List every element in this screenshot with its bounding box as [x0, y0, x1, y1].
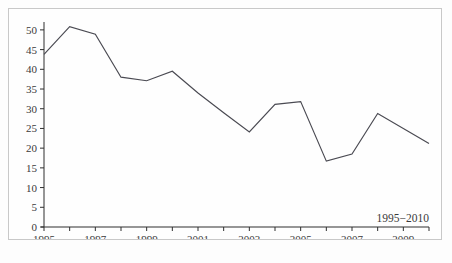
y-axis-tick-label: 50 [26, 24, 38, 36]
y-axis-tick-label: 40 [26, 63, 38, 75]
x-axis-tick-label: 2007 [341, 233, 364, 239]
x-axis-tick-label: 2005 [290, 233, 313, 239]
chart-figure: 05101520253035404550 1995199719992001200… [0, 0, 452, 263]
x-axis-tick-label: 1997 [84, 233, 107, 239]
y-axis-tick-label: 10 [26, 182, 38, 194]
x-axis-tick-label: 2003 [238, 233, 261, 239]
range-annotation: 1995−2010 [377, 212, 430, 224]
y-axis-tick-label: 5 [32, 201, 38, 213]
x-axis-tick-label: 1995 [33, 233, 56, 239]
x-axis-tick-label: 2009 [392, 233, 415, 239]
x-axis-tick-label: 1999 [136, 233, 159, 239]
x-axis-tick-group: 19951997199920012003200520072009 [33, 227, 429, 239]
y-axis-tick-label: 25 [26, 122, 38, 134]
y-axis-tick-label: 20 [26, 142, 38, 154]
y-axis-tick-group: 05101520253035404550 [26, 24, 44, 233]
line-chart-plot: 05101520253035404550 1995199719992001200… [9, 9, 441, 239]
data-series-line [44, 27, 429, 161]
y-axis-tick-label: 45 [26, 44, 38, 56]
x-axis-tick-label: 2001 [187, 233, 209, 239]
y-axis-tick-label: 35 [26, 83, 38, 95]
y-axis-tick-label: 0 [32, 221, 38, 233]
y-axis-tick-label: 15 [26, 162, 38, 174]
y-axis-tick-label: 30 [26, 103, 38, 115]
chart-frame: 05101520253035404550 1995199719992001200… [8, 8, 442, 240]
